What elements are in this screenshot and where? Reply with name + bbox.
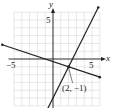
y-axis-label: y: [49, 0, 53, 9]
x-tick-label-neg5: −5: [6, 61, 16, 70]
x-tick-label-5: 5: [89, 61, 94, 70]
axes: [9, 8, 106, 108]
coordinate-plane: [0, 0, 113, 108]
y-tick-label-5: 5: [46, 16, 51, 25]
x-axis-label: x: [106, 54, 110, 63]
intersection-point-label: (2, −1): [62, 84, 87, 93]
